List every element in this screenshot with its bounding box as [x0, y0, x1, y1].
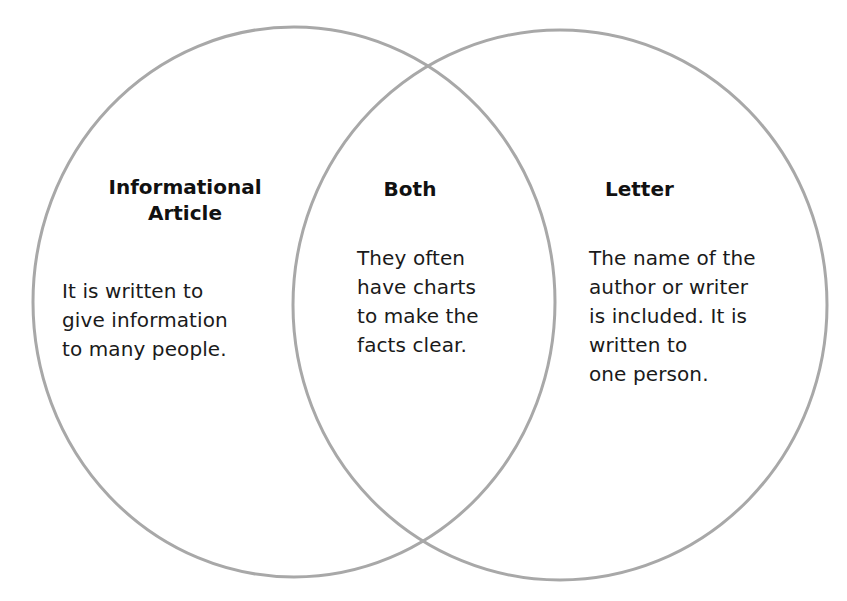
- overlap-heading: Both: [355, 176, 465, 202]
- left-text: It is written to give information to man…: [62, 277, 282, 364]
- overlap-text: They often have charts to make the facts…: [357, 244, 527, 360]
- right-heading: Letter: [605, 176, 725, 202]
- left-heading: Informational Article: [90, 174, 280, 226]
- right-text: The name of the author or writer is incl…: [589, 244, 819, 389]
